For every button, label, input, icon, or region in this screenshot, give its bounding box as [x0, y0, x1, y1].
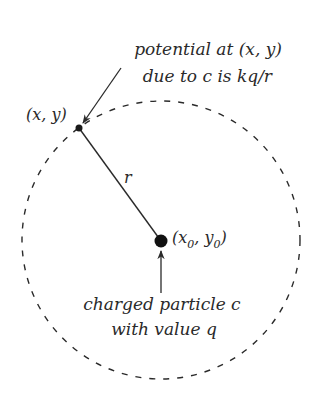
annotation-top-line2: due to c is kq/r	[143, 66, 273, 86]
point-xy-dot	[76, 125, 83, 132]
point-xy-label: (x, y)	[26, 105, 67, 124]
center-x0y0-label: (x0, y0)	[172, 228, 227, 251]
charge-particle-dot	[155, 235, 168, 248]
annotation-bottom-line2: with value q	[111, 319, 217, 339]
radius-line	[79, 128, 161, 241]
radius-label: r	[124, 168, 133, 187]
annotation-top-line1: potential at (x, y)	[134, 39, 282, 59]
potential-diagram: potential at (x, y) due to c is kq/r (x,…	[0, 0, 325, 406]
annotation-bottom-line1: charged particle c	[83, 294, 241, 314]
